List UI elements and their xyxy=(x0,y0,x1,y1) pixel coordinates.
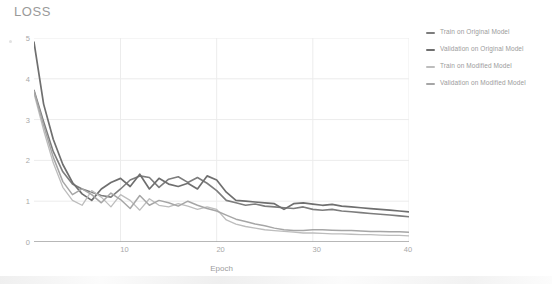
legend-item-label: Train on Original Model xyxy=(440,29,510,36)
y-axis-tick: 2 xyxy=(26,157,30,165)
legend-line-swatch-icon xyxy=(426,32,435,34)
chart-plot-area xyxy=(34,38,409,242)
chart-series-line xyxy=(34,93,409,235)
legend-item-label: Validation on Original Model xyxy=(440,46,524,53)
chart-series-lines xyxy=(34,42,409,236)
chart-series-line xyxy=(34,91,409,232)
y-axis-tick-labels: 5 4 3 2 1 0 xyxy=(18,38,30,242)
x-axis-tick: 30 xyxy=(313,246,321,254)
chart-legend: Train on Original Model Validation on Or… xyxy=(426,24,550,92)
x-axis-tick: 10 xyxy=(120,246,128,254)
y-axis-tick: 3 xyxy=(26,117,30,125)
legend-item[interactable]: Train on Modified Model xyxy=(426,58,550,75)
x-axis-tick-labels: 10 20 30 40 xyxy=(34,246,409,258)
legend-item-label: Train on Modified Model xyxy=(440,63,512,70)
y-axis-tick: 0 xyxy=(26,239,30,247)
legend-line-swatch-icon xyxy=(426,83,435,85)
legend-line-swatch-icon xyxy=(426,49,435,51)
legend-item[interactable]: Validation on Original Model xyxy=(426,41,550,58)
x-axis-tick: 20 xyxy=(216,246,224,254)
chart-series-line xyxy=(34,90,409,216)
chart-series-line xyxy=(34,42,409,212)
scan-artifact-band xyxy=(0,276,552,284)
legend-item[interactable]: Validation on Modified Model xyxy=(426,75,550,92)
y-axis-tick: 1 xyxy=(26,198,30,206)
legend-item[interactable]: Train on Original Model xyxy=(426,24,550,41)
page-title: LOSS xyxy=(14,4,51,19)
x-axis-label: Epoch xyxy=(34,264,409,273)
x-axis-tick: 40 xyxy=(404,246,412,254)
loss-line-chart xyxy=(34,38,409,242)
y-axis-tick: 4 xyxy=(26,76,30,84)
scan-artifact-speck xyxy=(9,40,12,43)
y-axis-tick: 5 xyxy=(26,35,30,43)
legend-item-label: Validation on Modified Model xyxy=(440,80,526,87)
legend-line-swatch-icon xyxy=(426,66,435,68)
